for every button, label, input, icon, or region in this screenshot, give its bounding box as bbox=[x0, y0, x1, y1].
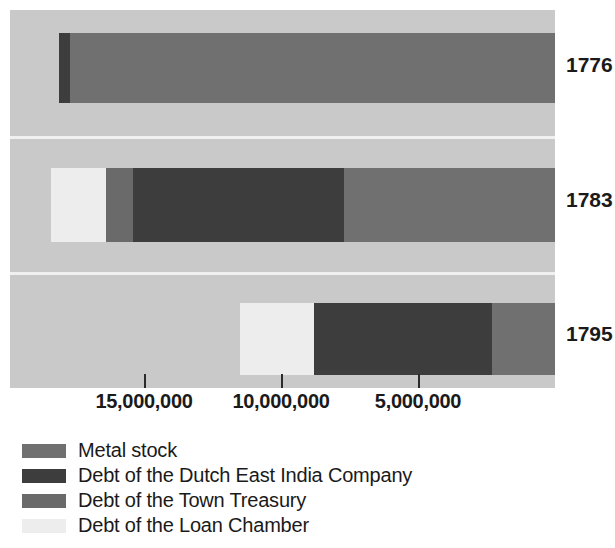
bar-row-1776 bbox=[10, 33, 555, 103]
bar-row-1795 bbox=[10, 303, 555, 375]
legend-swatch-icon bbox=[22, 519, 66, 533]
category-label-1795: 1795 bbox=[566, 322, 613, 346]
axis-tick bbox=[144, 374, 146, 388]
bar-segment[interactable] bbox=[51, 168, 106, 242]
legend-label: Metal stock bbox=[78, 439, 177, 462]
bar-segment[interactable] bbox=[492, 303, 555, 375]
legend-item[interactable]: Metal stock bbox=[22, 438, 602, 463]
bar-segment[interactable] bbox=[59, 33, 70, 103]
legend-label: Debt of the Loan Chamber bbox=[78, 514, 309, 537]
bar-segment[interactable] bbox=[133, 168, 344, 242]
legend-item[interactable]: Debt of the Loan Chamber bbox=[22, 513, 602, 538]
stacked-bar-1795[interactable] bbox=[240, 303, 555, 375]
axis-tick bbox=[418, 374, 420, 388]
stacked-bar-1776[interactable] bbox=[59, 33, 555, 103]
category-label-1776: 1776 bbox=[566, 53, 613, 77]
band-divider-1 bbox=[10, 136, 555, 139]
legend-swatch-icon bbox=[22, 444, 66, 458]
legend-swatch-icon bbox=[22, 494, 66, 508]
axis-tick bbox=[281, 374, 283, 388]
plot-area bbox=[10, 10, 555, 388]
legend-label: Debt of the Town Treasury bbox=[78, 489, 306, 512]
bar-segment[interactable] bbox=[70, 33, 555, 103]
category-label-1783: 1783 bbox=[566, 188, 613, 212]
stacked-bar-1783[interactable] bbox=[51, 168, 555, 242]
legend-swatch-icon bbox=[22, 469, 66, 483]
legend-item[interactable]: Debt of the Town Treasury bbox=[22, 488, 602, 513]
bar-segment[interactable] bbox=[106, 168, 133, 242]
axis-tick-label: 15,000,000 bbox=[95, 390, 192, 413]
legend-label: Debt of the Dutch East India Company bbox=[78, 464, 412, 487]
axis-tick-label: 10,000,000 bbox=[232, 390, 329, 413]
bar-row-1783 bbox=[10, 168, 555, 242]
chart-legend: Metal stockDebt of the Dutch East India … bbox=[22, 438, 602, 538]
chart-root: Metal stockDebt of the Dutch East India … bbox=[0, 0, 615, 548]
band-divider-2 bbox=[10, 272, 555, 275]
bar-segment[interactable] bbox=[240, 303, 314, 375]
legend-item[interactable]: Debt of the Dutch East India Company bbox=[22, 463, 602, 488]
bar-segment[interactable] bbox=[344, 168, 555, 242]
axis-tick-label: 5,000,000 bbox=[375, 390, 461, 413]
bar-segment[interactable] bbox=[314, 303, 492, 375]
